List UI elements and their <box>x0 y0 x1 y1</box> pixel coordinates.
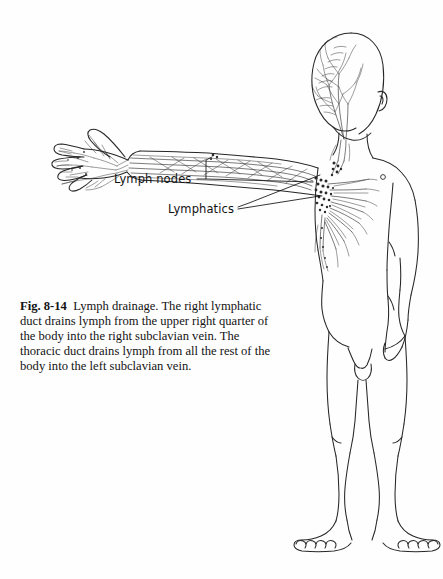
lymphatic-system-illustration <box>0 0 443 579</box>
figure-number: Fig. 8-14 <box>20 299 67 313</box>
head-lymphatics <box>312 37 363 174</box>
axillary-nodes <box>314 176 334 213</box>
body-outline <box>52 33 440 552</box>
label-lymph-nodes: Lymph nodes <box>114 172 191 186</box>
nipple-marker <box>381 175 386 180</box>
supraclavicular-nodes <box>331 162 342 177</box>
figure-page: Lymph nodes Lymphatics Fig. 8-14 Lymph d… <box>0 0 443 579</box>
figure-caption: Fig. 8-14 Lymph drainage. The right lymp… <box>20 299 274 374</box>
trunk-lymphatics <box>315 179 379 271</box>
label-lymphatics: Lymphatics <box>168 202 234 216</box>
